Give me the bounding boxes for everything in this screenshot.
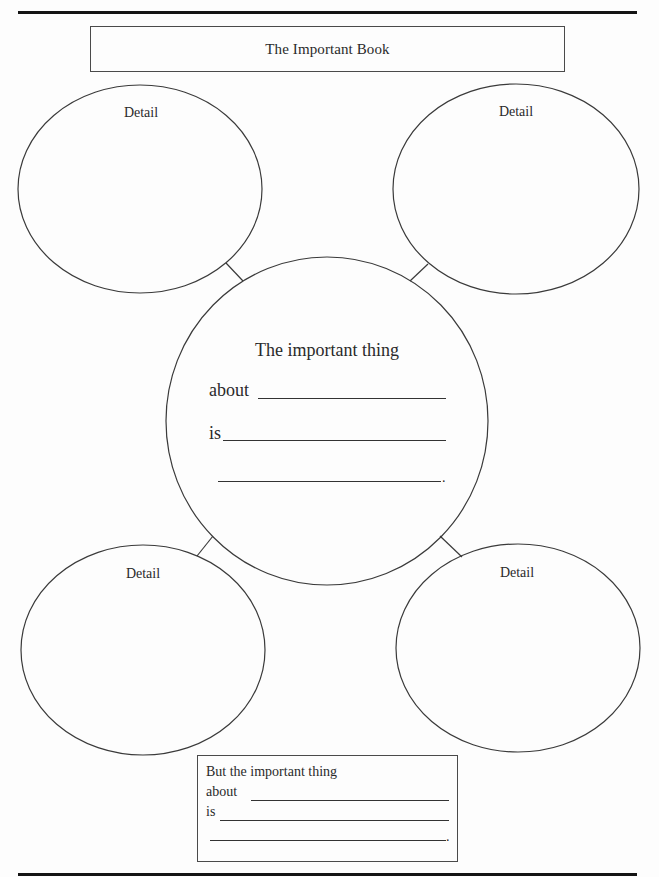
center-period: . [442,470,446,486]
connector-top-right [410,264,428,281]
center-about-blank[interactable] [258,398,446,399]
center-is-label: is [209,423,221,444]
center-about-label: about [209,380,249,401]
summary-about-blank[interactable] [251,800,449,801]
web-diagram [0,0,659,877]
detail-label-bottom-right: Detail [500,565,534,581]
summary-period: . [446,829,450,845]
detail-label-top-right: Detail [499,104,533,120]
center-heading: The important thing [255,340,399,361]
center-bubble[interactable] [166,257,488,585]
connector-top-left [226,263,243,281]
connector-bottom-right [440,536,462,557]
summary-is-blank[interactable] [220,820,449,821]
summary-about-label: about [206,784,237,800]
center-is-blank[interactable] [223,440,446,441]
worksheet-page: The Important Book Detail Detail Detail … [0,0,659,877]
summary-continuation-blank[interactable] [210,840,446,841]
detail-label-top-left: Detail [124,105,158,121]
summary-box: But the important thing about is . [197,755,458,862]
center-continuation-blank[interactable] [218,481,441,482]
summary-is-label: is [206,804,215,820]
connector-bottom-left [197,536,213,556]
detail-label-bottom-left: Detail [126,566,160,582]
summary-heading: But the important thing [206,764,337,780]
bottom-rule [18,873,637,876]
